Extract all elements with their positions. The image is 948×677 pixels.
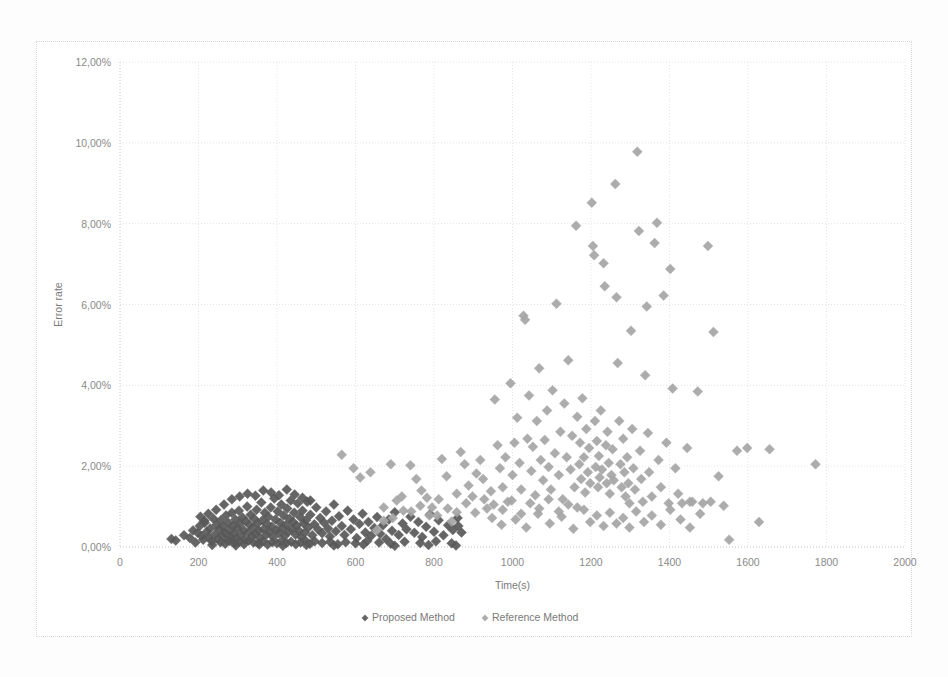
scatter-point [495, 463, 505, 473]
legend-item[interactable]: Proposed Method [362, 611, 455, 623]
scatter-point [452, 489, 462, 499]
scatter-point [282, 485, 292, 495]
scatter-point [670, 463, 680, 473]
scatter-point [498, 505, 508, 515]
y-tick-label: 10,00% [75, 137, 111, 149]
scatter-point [321, 506, 331, 516]
scatter-chart-figure: 0200400600800100012001400160018002000 0,… [0, 0, 948, 677]
scatter-point [559, 399, 569, 409]
scatter-point [572, 412, 582, 422]
chart-canvas: 0200400600800100012001400160018002000 0,… [0, 0, 948, 677]
scatter-point [610, 179, 620, 189]
scatter-point [524, 390, 534, 400]
scatter-point [570, 482, 580, 492]
legend-item[interactable]: Reference Method [482, 611, 579, 623]
y-tick-label: 12,00% [75, 56, 111, 68]
scatter-point [379, 502, 389, 512]
scatter-point [534, 363, 544, 373]
scatter-point [487, 513, 497, 523]
scatter-point [754, 517, 764, 527]
scatter-point [415, 501, 425, 511]
legend-label: Reference Method [492, 611, 579, 623]
scatter-point [546, 485, 556, 495]
scatter-point [548, 385, 558, 395]
scatter-point [416, 485, 426, 495]
scatter-point [442, 471, 452, 481]
scatter-point [411, 474, 421, 484]
scatter-point [567, 431, 577, 441]
scatter-point [343, 506, 353, 516]
scatter-point [580, 487, 590, 497]
scatter-point [355, 472, 365, 482]
scatter-point [647, 491, 657, 501]
scatter-point [405, 460, 415, 470]
scatter-point [555, 427, 565, 437]
scatter-point [461, 498, 471, 508]
scatter-point [719, 501, 729, 511]
scatter-point [592, 510, 602, 520]
scatter-point [626, 326, 636, 336]
scatter-point [443, 504, 453, 514]
scatter-point [329, 500, 339, 510]
x-tick-label: 600 [347, 556, 365, 568]
scatter-point [600, 281, 610, 291]
scatter-point [599, 521, 609, 531]
scatter-point [588, 241, 598, 251]
scatter-point [631, 506, 641, 516]
scatter-point [576, 474, 586, 484]
scatter-point [490, 394, 500, 404]
x-tick-label: 1200 [579, 556, 603, 568]
scatter-point [652, 218, 662, 228]
scatter-point [675, 515, 685, 525]
scatter-point [550, 448, 560, 458]
scatter-point [643, 428, 653, 438]
scatter-point [581, 424, 591, 434]
scatter-point [506, 378, 516, 388]
scatter-point [400, 537, 410, 547]
legend-label: Proposed Method [372, 611, 455, 623]
scatter-point [714, 471, 724, 481]
scatter-point [563, 355, 573, 365]
scatter-point [765, 444, 775, 454]
y-tick-label: 6,00% [81, 299, 111, 311]
scatter-point [250, 491, 260, 501]
scatter-point [624, 523, 634, 533]
scatter-point [500, 452, 510, 462]
scatter-point [508, 470, 518, 480]
scatter-point [429, 527, 439, 537]
scatter-point [479, 494, 489, 504]
scatter-point [512, 413, 522, 423]
scatter-point [742, 443, 752, 453]
y-axis-ticks: 0,00%2,00%4,00%6,00%8,00%10,00%12,00% [75, 56, 111, 553]
scatter-point [341, 537, 351, 547]
scatter-point [587, 198, 597, 208]
scatter-point [577, 393, 587, 403]
scatter-point [654, 455, 664, 465]
scatter-point [544, 462, 554, 472]
scatter-point [544, 494, 554, 504]
scatter-point [317, 538, 327, 548]
scatter-point [437, 454, 447, 464]
scatter-point [438, 530, 448, 540]
x-axis-title: Time(s) [495, 579, 530, 591]
scatter-point [673, 489, 683, 499]
scatter-point [698, 498, 708, 508]
legend-marker-icon [482, 615, 488, 621]
x-axis-ticks: 0200400600800100012001400160018002000 [117, 556, 917, 568]
scatter-point [475, 455, 485, 465]
scatter-point [365, 467, 375, 477]
scatter-point [685, 523, 695, 533]
scatter-point [628, 463, 638, 473]
scatter-point [422, 493, 432, 503]
scatter-point [708, 327, 718, 337]
scatter-point [618, 434, 628, 444]
scatter-point [605, 508, 615, 518]
scatter-point [592, 436, 602, 446]
y-tick-label: 8,00% [81, 218, 111, 230]
scatter-point [337, 450, 347, 460]
scatter-point [311, 502, 321, 512]
scatter-point [509, 438, 519, 448]
legend-marker-icon [362, 615, 368, 621]
scatter-point [695, 509, 705, 519]
scatter-point [568, 524, 578, 534]
